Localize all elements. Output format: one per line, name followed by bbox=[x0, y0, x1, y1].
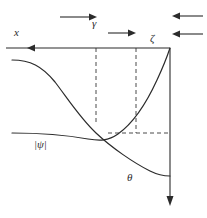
marker-label-gamma: γ bbox=[92, 17, 97, 29]
top-arrows-group bbox=[60, 14, 136, 37]
arrow-right-lower-left bbox=[172, 31, 180, 38]
marker-label-zeta: ζ bbox=[150, 32, 156, 45]
axes-group bbox=[6, 45, 174, 207]
arrow-axis-left bbox=[27, 45, 35, 52]
curve-psi bbox=[12, 60, 170, 176]
axis-label-x: x bbox=[13, 26, 19, 38]
labels-group: x γ ζ |ψ| θ bbox=[13, 17, 156, 183]
figure-container: x γ ζ |ψ| θ bbox=[0, 0, 207, 218]
arrow-right-upper-left bbox=[172, 13, 180, 20]
arrow-bottom-down bbox=[167, 196, 174, 206]
diagram-canvas: x γ ζ |ψ| θ bbox=[0, 0, 207, 218]
curve-label-psi: |ψ| bbox=[34, 138, 47, 150]
curve-label-theta: θ bbox=[127, 171, 133, 183]
curves-group bbox=[12, 48, 170, 176]
curve-theta bbox=[12, 48, 170, 140]
arrow-mid-right-short bbox=[128, 30, 136, 37]
right-arrows-group bbox=[172, 13, 203, 38]
